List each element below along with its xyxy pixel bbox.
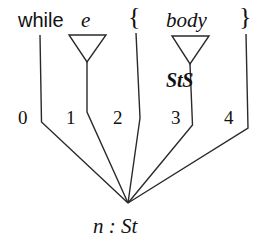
edge-index-2: 2 [113,108,123,127]
edge-index-0: 0 [18,108,28,127]
edge-2-open-brace [128,33,140,203]
triangle-body-subtree [172,36,209,64]
parse-tree-diagram: while e { body } StS 0 1 2 3 4 n : St [0,0,267,249]
symbol-close-brace: } [239,4,251,30]
triangle-e-subtree [69,35,106,62]
root-node-label: n : St [93,216,137,237]
edge-1-e [87,62,128,203]
edge-index-3: 3 [171,108,181,127]
type-annotation-sts: StS [166,70,193,90]
symbol-body: body [166,10,207,31]
edge-index-1: 1 [66,108,76,127]
symbol-e: e [81,10,90,31]
symbol-open-brace: { [128,4,140,30]
edge-index-4: 4 [224,108,234,127]
symbol-while: while [18,10,64,30]
